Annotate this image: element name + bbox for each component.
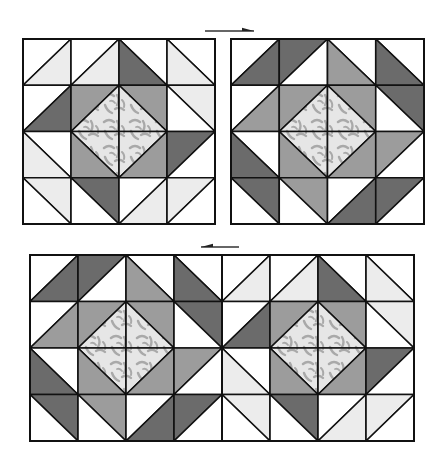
block-top-right: [231, 39, 424, 224]
block-top-left: [23, 39, 215, 224]
arrow-right-icon: [205, 27, 254, 35]
strip-bottom-right-block: [222, 255, 414, 441]
arrow-left-icon: [201, 243, 239, 251]
strip-bottom-left-block: [30, 255, 222, 441]
